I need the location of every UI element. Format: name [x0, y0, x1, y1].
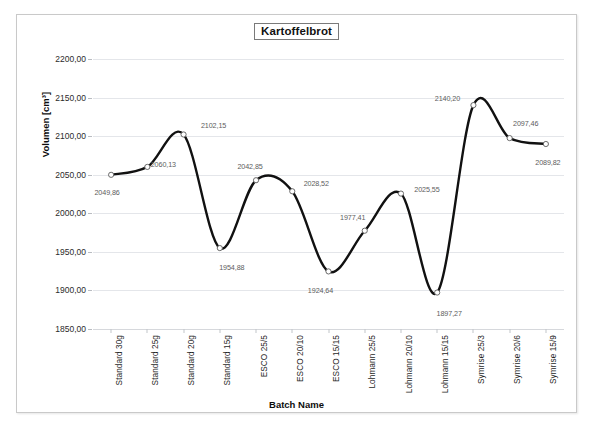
x-axis-category-label: Symrise 25/3	[477, 335, 486, 384]
y-axis-tick-mark	[88, 213, 92, 214]
x-axis-tick-mark	[545, 329, 546, 333]
y-axis-tick-mark	[88, 252, 92, 253]
data-point-label: 1924,64	[308, 286, 333, 295]
plot-area-wrapper: 2200,002150,002100,002050,002000,001950,…	[93, 59, 564, 329]
data-point-marker	[543, 141, 548, 146]
data-point-marker	[290, 189, 295, 194]
data-point-label: 2097,46	[513, 119, 538, 128]
x-axis-category-label: Symrise 15/9	[549, 335, 558, 384]
x-axis-tick-mark	[509, 329, 510, 333]
y-axis-tick-label: 1950,00	[55, 247, 86, 257]
x-axis-category-label: ESCO 25/5	[260, 335, 269, 377]
x-axis-tick-mark	[183, 329, 184, 333]
data-point-marker	[145, 164, 150, 169]
y-axis-title: Volumen [cm³]	[40, 45, 51, 205]
x-axis-category-label: Standard 25g	[151, 335, 160, 385]
data-point-label: 2025,55	[414, 184, 439, 193]
y-axis-tick-label: 1850,00	[55, 324, 86, 334]
data-point-marker	[253, 178, 258, 183]
y-axis-tick-label: 2000,00	[55, 208, 86, 218]
data-point-label: 2102,15	[201, 121, 226, 130]
y-axis-tick-label: 2050,00	[55, 170, 86, 180]
x-axis-tick-mark	[292, 329, 293, 333]
data-point-label: 2049,86	[94, 187, 119, 196]
y-axis-tick-mark	[88, 175, 92, 176]
x-axis-category-label: Lohmann 15/15	[441, 335, 450, 393]
y-axis-tick-mark	[88, 290, 92, 291]
x-axis-tick-mark	[219, 329, 220, 333]
data-point-marker	[217, 245, 222, 250]
data-point-marker	[362, 228, 367, 233]
x-axis-category-label: Standard 20g	[187, 335, 196, 385]
y-axis-tick-label: 2150,00	[55, 93, 86, 103]
x-axis-category-label: ESCO 20/10	[296, 335, 305, 382]
x-axis-tick-mark	[364, 329, 365, 333]
x-axis-tick-mark	[473, 329, 474, 333]
chart-title-container: Kartoffelbrot	[17, 21, 576, 40]
x-axis-category-label: Symrise 20/6	[513, 335, 522, 384]
x-axis-tick-mark	[147, 329, 148, 333]
series-line	[111, 98, 546, 294]
data-point-marker	[398, 191, 403, 196]
x-axis-tick-mark	[256, 329, 257, 333]
x-axis-tick-mark	[328, 329, 329, 333]
data-point-label: 2089,82	[535, 157, 560, 166]
data-point-marker	[326, 269, 331, 274]
data-point-label: 1977,41	[340, 212, 365, 221]
scan-artifact	[14, 424, 314, 432]
x-axis-tick-mark	[437, 329, 438, 333]
x-axis-tick-mark	[111, 329, 112, 333]
y-axis-tick-label: 2200,00	[55, 54, 86, 64]
x-axis-category-label: Standard 15g	[223, 335, 232, 385]
x-axis-tick-mark	[400, 329, 401, 333]
data-point-label: 1897,27	[437, 308, 462, 317]
data-point-marker	[471, 103, 476, 108]
data-point-marker	[109, 172, 114, 177]
x-axis-category-label: ESCO 15/15	[332, 335, 341, 382]
data-point-marker	[181, 132, 186, 137]
y-axis-tick-mark	[88, 59, 92, 60]
chart-title: Kartoffelbrot	[254, 23, 339, 40]
y-axis-tick-label: 2100,00	[55, 131, 86, 141]
data-point-label: 2028,52	[304, 179, 329, 188]
data-point-label: 2140,20	[435, 94, 460, 103]
data-point-label: 1954,88	[219, 263, 244, 272]
x-axis-title: Batch Name	[17, 399, 576, 410]
data-point-marker	[435, 290, 440, 295]
data-point-marker	[507, 136, 512, 141]
x-axis-category-label: Standard 30g	[115, 335, 124, 385]
x-axis-category-label: Lohmann 25/5	[368, 335, 377, 389]
x-axis-category-labels: Standard 30gStandard 25gStandard 20gStan…	[93, 333, 564, 399]
chart-frame: Kartoffelbrot Volumen [cm³] 2200,002150,…	[16, 14, 577, 413]
data-point-label: 2060,13	[151, 159, 176, 168]
x-axis-category-label: Lohmann 20/10	[405, 335, 414, 393]
y-axis-tick-mark	[88, 136, 92, 137]
y-axis-tick-mark	[88, 98, 92, 99]
y-axis-tick-label: 1900,00	[55, 285, 86, 295]
data-point-label: 2042,85	[237, 162, 262, 171]
y-axis-tick-mark	[88, 329, 92, 330]
